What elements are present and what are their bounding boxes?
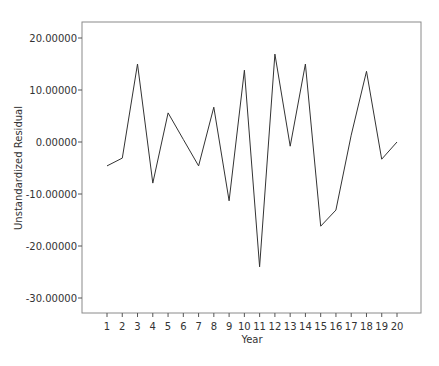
y-tick-label: -10.00000 [26, 189, 77, 200]
residual-series-line [107, 54, 397, 267]
x-tick-label: 16 [330, 321, 343, 332]
x-tick-label: 6 [180, 321, 186, 332]
x-tick-label: 9 [226, 321, 232, 332]
x-tick-label: 7 [195, 321, 201, 332]
x-tick-label: 5 [165, 321, 171, 332]
y-axis: 20.0000010.000000.00000-10.00000-20.0000… [26, 33, 82, 304]
y-tick-label: 0.00000 [36, 137, 77, 148]
x-tick-label: 14 [299, 321, 312, 332]
x-tick-label: 10 [238, 321, 251, 332]
x-tick-label: 19 [375, 321, 388, 332]
x-tick-label: 8 [211, 321, 217, 332]
x-tick-label: 17 [345, 321, 358, 332]
x-tick-label: 12 [269, 321, 282, 332]
x-tick-label: 13 [284, 321, 297, 332]
y-axis-title: Unstandardized Residual [13, 106, 24, 230]
x-tick-label: 11 [253, 321, 266, 332]
x-tick-label: 3 [134, 321, 140, 332]
x-tick-label: 2 [119, 321, 125, 332]
y-tick-label: 20.00000 [29, 33, 77, 44]
x-axis-title: Year [240, 334, 263, 345]
residual-line-chart: 20.0000010.000000.00000-10.00000-20.0000… [0, 0, 439, 366]
y-tick-label: -20.00000 [26, 241, 77, 252]
x-tick-label: 1 [104, 321, 110, 332]
x-tick-label: 4 [150, 321, 156, 332]
x-tick-label: 20 [391, 321, 404, 332]
x-tick-label: 15 [314, 321, 327, 332]
x-tick-label: 18 [360, 321, 373, 332]
y-tick-label: 10.00000 [29, 85, 77, 96]
x-axis: 1234567891011121314151617181920 [104, 313, 404, 332]
y-tick-label: -30.00000 [26, 293, 77, 304]
